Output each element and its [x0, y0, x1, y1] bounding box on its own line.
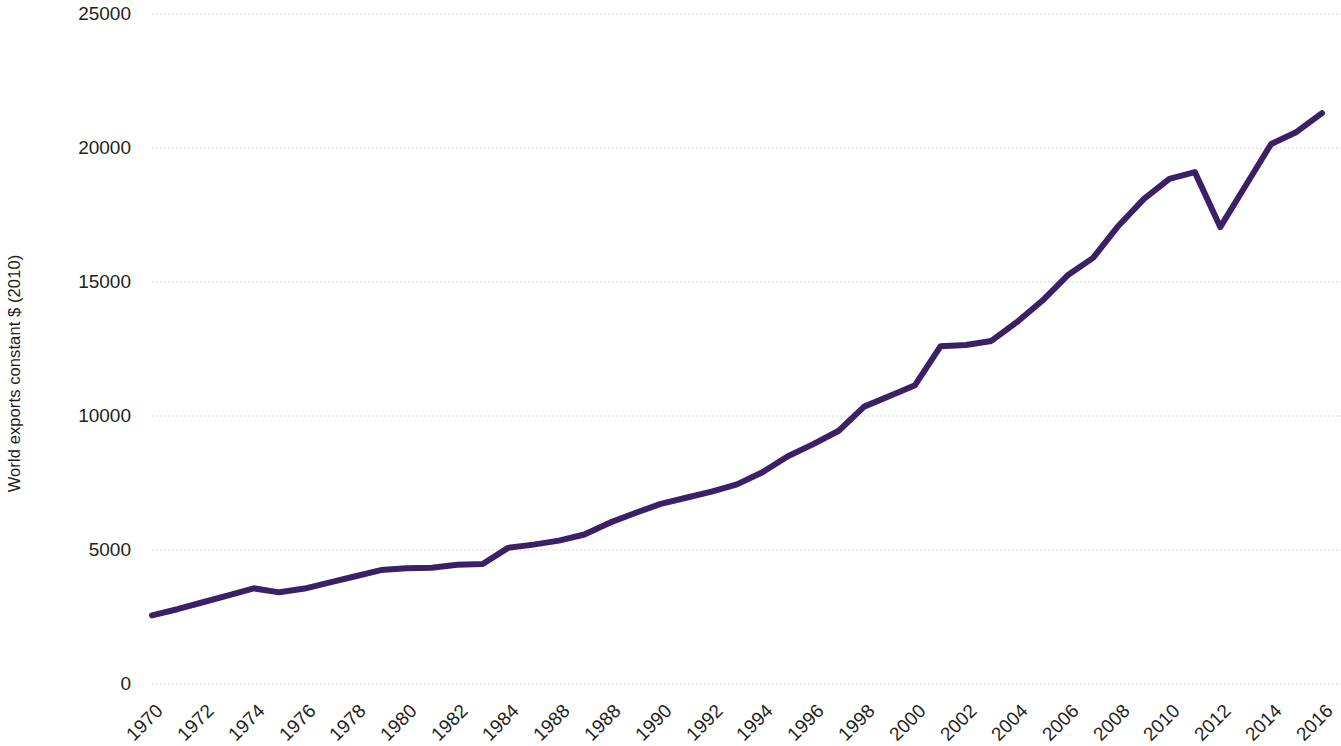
line-chart: World exports constant $ (2010) 05000100…: [0, 0, 1341, 746]
data-line-world-exports: [152, 113, 1322, 615]
plot-area: [0, 0, 1341, 746]
